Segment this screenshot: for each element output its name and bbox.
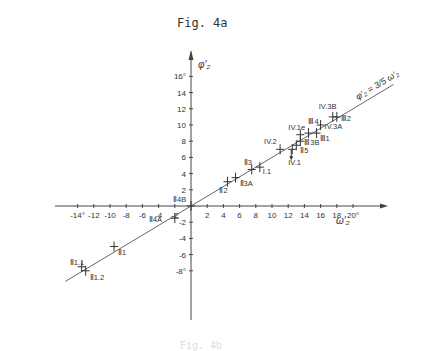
fit-line-label: φ'₂ = 3/5 ω'₂	[354, 68, 401, 102]
x-tick-label: 2	[205, 211, 210, 220]
data-point-label: IV.3B	[319, 102, 337, 111]
data-point-label: Ⅱ1.1	[70, 258, 84, 267]
data-point-label: Ⅱ4B	[173, 195, 186, 204]
data-point-label: Ⅱ3A	[240, 179, 253, 188]
x-axis-arrow-icon	[380, 204, 388, 209]
data-point-label: IV.2	[264, 137, 277, 146]
y-tick-label: 2	[182, 186, 187, 195]
y-tick-label: -2	[179, 218, 187, 227]
x-tick-label: -10	[104, 211, 116, 220]
data-point-label: Ⅱ5	[300, 146, 308, 155]
x-tick-label: -8	[123, 211, 131, 220]
data-point-label: Ⅲ3B	[304, 138, 319, 147]
x-tick-label: 16	[316, 211, 325, 220]
x-tick-label: 6	[237, 211, 242, 220]
x-tick-label: 8	[254, 211, 259, 220]
x-tick-label: 10	[268, 211, 277, 220]
data-point-label: Ⅲ2	[341, 114, 351, 123]
data-point-label: IV.1e	[288, 123, 305, 132]
y-tick-label: 12	[177, 105, 186, 114]
x-tick-label: -6	[139, 211, 147, 220]
data-point-label: Ⅱ1	[118, 248, 126, 257]
y-tick-label: -4	[179, 234, 187, 243]
y-tick-label: 16°	[174, 72, 186, 81]
x-tick-label: -14°	[70, 211, 85, 220]
y-tick-label: -8°	[176, 267, 186, 276]
y-tick-label: 10	[177, 121, 186, 130]
data-point-label: I.1	[263, 167, 271, 176]
x-axis-label: ω'₂	[336, 215, 350, 226]
y-tick-label: -6	[179, 251, 187, 260]
data-point-label: Ⅱ1.2	[90, 273, 104, 282]
y-tick-label: 6	[182, 153, 187, 162]
x-tick-label: 4	[221, 211, 226, 220]
x-tick-label: 12	[284, 211, 293, 220]
y-tick-label: 4	[182, 170, 187, 179]
data-point-label: Ⅱ4A	[149, 215, 162, 224]
y-tick-label: 14	[177, 89, 186, 98]
data-point-label: Ⅱ3	[244, 158, 252, 167]
y-axis-label: φ'₂	[198, 59, 210, 70]
data-point-label: Ⅱ2	[219, 186, 227, 195]
y-axis-arrow-icon	[189, 50, 194, 60]
x-tick-label: -12	[88, 211, 100, 220]
data-point-label: IV.1	[288, 158, 301, 167]
data-point-label: IV.3A	[325, 122, 343, 131]
next-figure-caption: Fig. 4b	[180, 340, 222, 351]
x-tick-label: 14	[300, 211, 309, 220]
data-point-label: Ⅲ1	[320, 134, 330, 143]
y-tick-label: 8	[182, 137, 187, 146]
